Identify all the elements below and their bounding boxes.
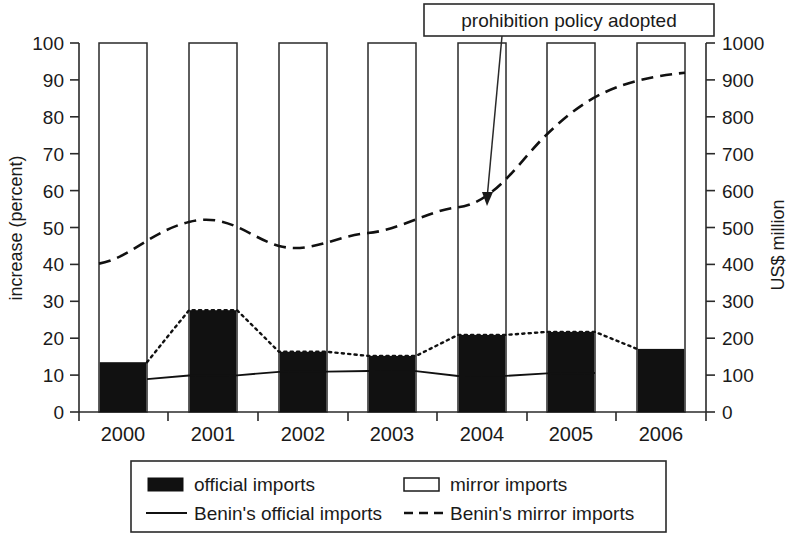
official-imports-bar-2003: [369, 356, 415, 412]
bar-group-2001: [189, 43, 237, 412]
left-axis-ticks: [70, 43, 79, 412]
annotation-label: prohibition policy adopted: [461, 10, 677, 31]
bar-group-2000: [99, 43, 147, 412]
right-tick-label-700: 700: [722, 144, 754, 165]
right-tick-label-1000: 1000: [722, 33, 764, 54]
bar-group-2006: [637, 43, 685, 412]
x-tick-label-2002: 2002: [281, 423, 326, 445]
left-tick-label-90: 90: [43, 70, 64, 91]
bar-group-2002: [279, 43, 327, 412]
annotation-leader-line: [487, 36, 502, 199]
x-axis-ticks: [79, 412, 706, 421]
right-tick-label-800: 800: [722, 107, 754, 128]
legend-label-benins-official-imports: Benin's official imports: [194, 503, 382, 524]
chart-svg: 100 90 80 70 60 50 40 30 20 10 0 increas…: [0, 0, 797, 538]
right-tick-label-400: 400: [722, 254, 754, 275]
x-tick-label-2000: 2000: [101, 423, 146, 445]
left-tick-label-40: 40: [43, 254, 64, 275]
legend: official imports mirror imports Benin's …: [131, 461, 666, 532]
legend-label-benins-mirror-imports: Benin's mirror imports: [450, 503, 634, 524]
left-tick-label-60: 60: [43, 181, 64, 202]
official-imports-bar-2002: [280, 352, 326, 412]
right-tick-label-200: 200: [722, 328, 754, 349]
right-tick-label-0: 0: [722, 402, 733, 423]
x-tick-label-2006: 2006: [639, 423, 684, 445]
left-tick-label-20: 20: [43, 328, 64, 349]
left-tick-label-50: 50: [43, 218, 64, 239]
legend-marker-outline-rect-icon: [404, 478, 439, 491]
left-axis: 100 90 80 70 60 50 40 30 20 10 0 increas…: [6, 33, 79, 423]
right-axis-title: US$ million: [768, 199, 788, 290]
legend-marker-filled-rect-icon: [148, 478, 183, 491]
official-imports-bar-2005: [548, 332, 594, 412]
x-tick-label-2003: 2003: [370, 423, 415, 445]
bar-group-2004: [458, 43, 506, 412]
annotation-prohibition-policy: prohibition policy adopted: [424, 4, 714, 206]
legend-label-mirror-imports: mirror imports: [450, 474, 567, 495]
right-tick-label-900: 900: [722, 70, 754, 91]
official-imports-bar-2004: [459, 335, 505, 412]
benins-mirror-imports-line: [99, 73, 685, 264]
left-tick-label-80: 80: [43, 107, 64, 128]
official-imports-bar-2000: [100, 362, 146, 412]
left-tick-label-0: 0: [53, 402, 64, 423]
left-tick-label-30: 30: [43, 291, 64, 312]
x-tick-label-2004: 2004: [460, 423, 505, 445]
right-tick-label-300: 300: [722, 291, 754, 312]
official-imports-bar-2001: [190, 310, 236, 412]
official-imports-bar-2006: [638, 349, 684, 412]
x-tick-label-2005: 2005: [549, 423, 594, 445]
right-axis-ticks: [706, 43, 715, 412]
left-axis-title: increase (percent): [6, 155, 26, 300]
right-tick-label-100: 100: [722, 365, 754, 386]
right-tick-label-500: 500: [722, 218, 754, 239]
x-tick-label-2001: 2001: [191, 423, 236, 445]
left-tick-label-10: 10: [43, 365, 64, 386]
chart-figure: 100 90 80 70 60 50 40 30 20 10 0 increas…: [0, 0, 797, 538]
legend-label-official-imports: official imports: [194, 474, 315, 495]
bar-group-2005: [547, 43, 595, 412]
x-axis: 2000 2001 2002 2003 2004 2005 2006: [79, 412, 706, 445]
left-tick-label-70: 70: [43, 144, 64, 165]
left-tick-label-100: 100: [32, 33, 64, 54]
right-tick-label-600: 600: [722, 181, 754, 202]
right-axis: 1000 900 800 700 600 500 400 300 200 100…: [706, 33, 788, 423]
mirror-imports-bar-2000: [99, 43, 147, 412]
